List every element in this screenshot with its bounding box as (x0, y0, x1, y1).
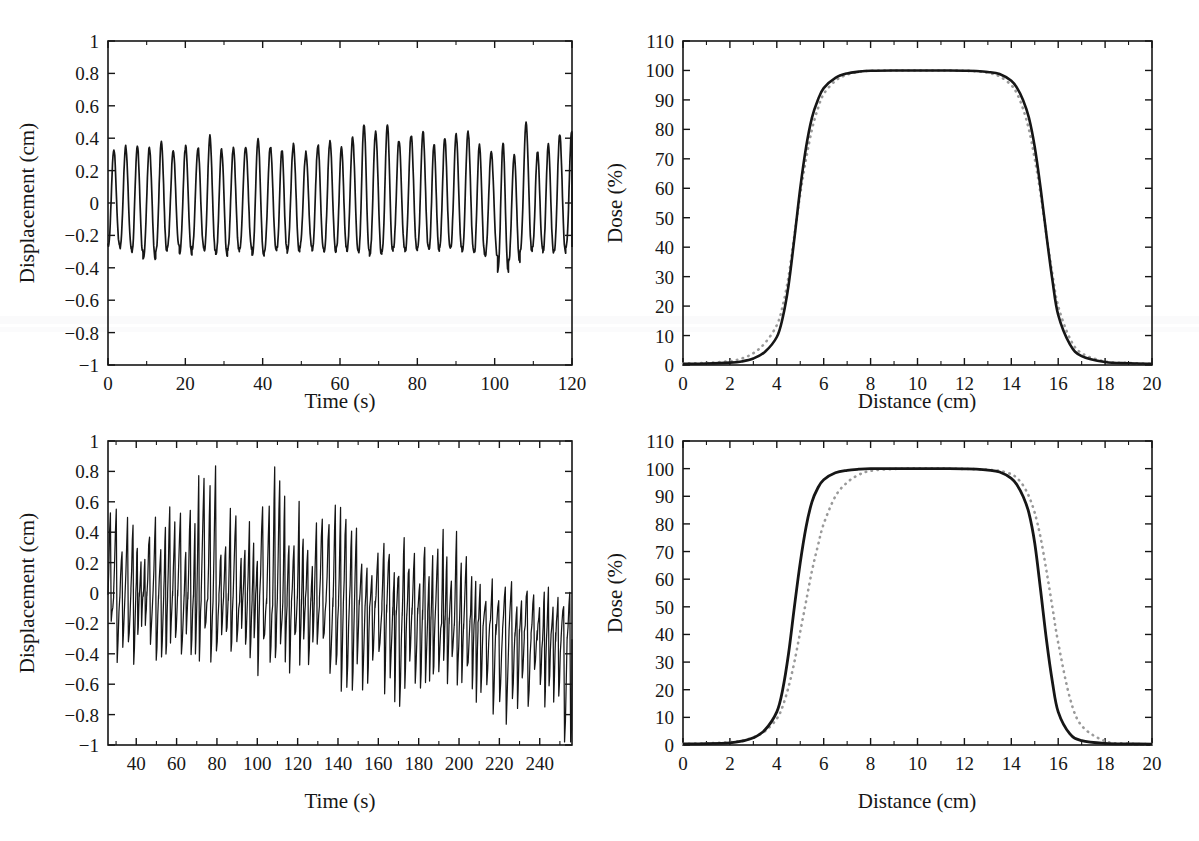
x-tick-label: 8 (866, 753, 876, 774)
x-tick-label: 2 (725, 373, 735, 394)
y-tick-label: 100 (646, 459, 675, 480)
panel-top-left: −1−0.8−0.6−0.4−0.200.20.40.60.81 0204060… (0, 0, 600, 420)
tick-marks-bottom-right (683, 441, 1152, 745)
displacement-trace-irregular (108, 466, 572, 742)
y-tick-label: −0.6 (65, 674, 99, 695)
x-tick-label: 4 (772, 373, 782, 394)
x-tick-label: 0 (678, 373, 688, 394)
y-tick-label: 80 (655, 119, 674, 140)
y-tick-label: 0.2 (75, 553, 99, 574)
x-axis-title-bottom-right: Distance (cm) (858, 789, 976, 813)
y-tick-label: −0.2 (65, 225, 99, 246)
y-tick-label: 100 (646, 60, 675, 81)
y-tick-label: 1 (90, 31, 100, 52)
y-tick-label: −0.2 (65, 613, 99, 634)
x-tick-label: 220 (485, 753, 514, 774)
y-tick-label: 0.4 (75, 128, 99, 149)
panel-bottom-right: 0102030405060708090100110 02468101214161… (600, 420, 1199, 841)
y-tick-label: 20 (655, 680, 674, 701)
y-tick-label: 20 (655, 296, 674, 317)
y-tick-label: 110 (646, 31, 674, 52)
y-tick-label: 10 (655, 326, 674, 347)
y-tick-label: 110 (646, 431, 674, 452)
x-tick-label: 80 (207, 753, 226, 774)
x-tick-label: 10 (908, 753, 927, 774)
x-tick-label: 180 (404, 753, 433, 774)
x-tick-label: 160 (364, 753, 393, 774)
y-tick-label: −0.6 (65, 290, 99, 311)
x-tick-label: 0 (678, 753, 688, 774)
plot-dose-profile-regular: 0102030405060708090100110 02468101214161… (600, 0, 1199, 420)
y-tick-label: 70 (655, 542, 674, 563)
y-tick-labels-top-right: 0102030405060708090100110 (646, 31, 675, 376)
x-tick-label: 18 (1096, 373, 1115, 394)
y-tick-label: 80 (655, 514, 674, 535)
x-tick-label: 140 (324, 753, 353, 774)
y-tick-label: 90 (655, 486, 674, 507)
x-tick-label: 20 (1143, 753, 1162, 774)
x-tick-label: 6 (819, 373, 829, 394)
x-tick-label: 80 (408, 373, 427, 394)
y-axis-title-bottom-right: Dose (%) (603, 553, 627, 633)
plot-irregular-breathing: −1−0.8−0.6−0.4−0.200.20.40.60.81 4060801… (0, 420, 600, 841)
x-tick-label: 16 (1049, 373, 1068, 394)
y-tick-label: 60 (655, 178, 674, 199)
tick-marks-top-left (108, 41, 572, 365)
y-tick-labels-top-left: −1−0.8−0.6−0.4−0.200.20.40.60.81 (65, 31, 100, 376)
x-tick-label: 60 (167, 753, 186, 774)
x-axis-title-top-right: Distance (cm) (858, 389, 976, 413)
y-axis-title-top-right: Dose (%) (603, 163, 627, 243)
panel-bottom-left: −1−0.8−0.6−0.4−0.200.20.40.60.81 4060801… (0, 420, 600, 841)
x-tick-label: 12 (955, 753, 974, 774)
x-axis-title-bottom-left: Time (s) (305, 789, 376, 813)
y-tick-labels-bottom-right: 0102030405060708090100110 (646, 431, 675, 756)
x-tick-label: 18 (1096, 753, 1115, 774)
x-tick-label: 240 (525, 753, 554, 774)
y-tick-label: 0 (90, 193, 100, 214)
y-tick-label: 1 (90, 431, 100, 452)
displacement-trace-regular (108, 122, 572, 272)
x-tick-label: 40 (253, 373, 272, 394)
x-tick-label: 100 (243, 753, 272, 774)
plot-dose-profile-irregular: 0102030405060708090100110 02468101214161… (600, 420, 1199, 841)
x-tick-label: 0 (103, 373, 113, 394)
x-tick-label: 20 (176, 373, 195, 394)
y-tick-label: −1 (79, 355, 99, 376)
x-tick-label: 14 (1002, 373, 1022, 394)
y-tick-label: −1 (79, 735, 99, 756)
y-tick-label: 0.6 (75, 492, 99, 513)
plot-regular-breathing: −1−0.8−0.6−0.4−0.200.20.40.60.81 0204060… (0, 0, 600, 420)
x-tick-label: 120 (283, 753, 312, 774)
figure-root: −1−0.8−0.6−0.4−0.200.20.40.60.81 0204060… (0, 0, 1199, 841)
x-tick-label: 2 (725, 753, 735, 774)
y-tick-label: 90 (655, 90, 674, 111)
y-tick-label: 0 (665, 355, 675, 376)
axes-frame-top-right (683, 41, 1152, 365)
x-tick-label: 6 (819, 753, 829, 774)
axes-frame-bottom-right (683, 441, 1152, 745)
y-tick-label: 0.4 (75, 522, 99, 543)
y-tick-label: 40 (655, 237, 674, 258)
dose-curve-static-regular (683, 70, 1152, 363)
y-tick-label: 30 (655, 652, 674, 673)
y-tick-label: 40 (655, 624, 674, 645)
y-axis-title-bottom-left: Displacement (cm) (15, 513, 39, 673)
panel-top-right: 0102030405060708090100110 02468101214161… (600, 0, 1199, 420)
y-tick-label: 0 (90, 583, 100, 604)
y-tick-label: 0.8 (75, 461, 99, 482)
y-tick-label: 30 (655, 267, 674, 288)
x-axis-title-top-left: Time (s) (305, 389, 376, 413)
dose-curve-static-irregular (683, 469, 1152, 745)
y-tick-label: −0.8 (65, 323, 99, 344)
x-tick-label: 20 (1143, 373, 1162, 394)
y-tick-labels-bottom-left: −1−0.8−0.6−0.4−0.200.20.40.60.81 (65, 431, 100, 756)
x-tick-labels-bottom-right: 02468101214161820 (678, 753, 1161, 774)
x-tick-label: 120 (558, 373, 587, 394)
x-tick-label: 14 (1002, 753, 1022, 774)
dose-curve-motion-regular (683, 70, 1152, 363)
y-tick-label: 50 (655, 208, 674, 229)
y-tick-label: 0.2 (75, 161, 99, 182)
y-tick-label: 0.6 (75, 96, 99, 117)
y-axis-title-top-left: Displacement (cm) (15, 123, 39, 283)
x-tick-label: 4 (772, 753, 782, 774)
